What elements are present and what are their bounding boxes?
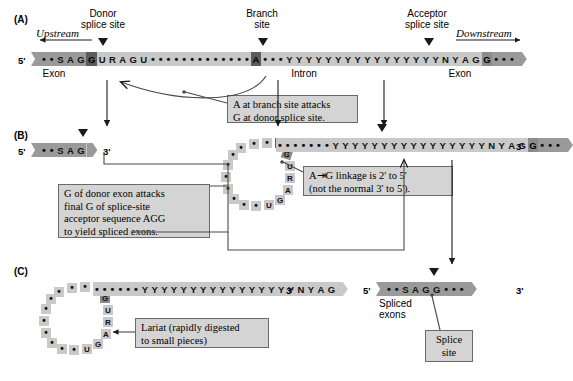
lariat-tail-u2-c: U [82,344,92,354]
branch-site-caret-icon [258,38,268,46]
donor-splice-site-label: Donor splice site [63,8,143,30]
polypyrimidine-tract-c: YYYYYYYYYYYYYYYYNYAG [140,282,337,296]
donor-g-residue: G [86,52,97,66]
lariat-bead [223,184,233,194]
spliced-site-caret-icon [429,268,439,276]
branch-a-residue: A [251,52,261,66]
lariat-tail-u1: U [285,161,295,171]
spliced-5prime-cap [376,282,385,296]
lariat-bead [221,172,231,182]
acceptor-exon-segment-b: ••• [538,138,562,152]
exon-left-label: Exon [30,68,78,79]
lariat-tail-g: G [275,195,285,205]
panel-c-3prime: 3' [516,285,524,296]
branch-attack-callout: A at branch site attacks G at donor spli… [227,95,358,123]
donor-site-caret-icon [98,38,108,46]
lariat-bead [57,344,67,354]
lariat-bead [69,345,79,355]
exon-right-label: Exon [437,68,483,79]
branch-callout-leader-dot [182,90,186,94]
lariat-bead [239,200,249,210]
acceptor-exon-3prime-cap-b [562,138,573,152]
donor-exon-5prime-cap [31,143,40,157]
polypyrimidine-tract: YYYYYYYYYYYYYYYYNYAG [285,52,482,66]
panel-c-letter: (C) [14,266,28,277]
donor-exon-segment: ••SAG [40,143,86,157]
lariat-callout: Lariat (rapidly digested to small pieces… [135,318,269,348]
lariat-bead [229,194,239,204]
spliced-exons-strand: ••SAGG••• [376,282,477,296]
strand-5prime-cap [31,52,40,66]
spliced-exons-label: Spliced exons [379,298,435,320]
panel-c-5prime: 5' [363,285,371,296]
panel-a-letter: (A) [14,14,28,25]
lariat-bead [67,283,77,293]
panel-b-donor-3prime: 3' [103,146,111,157]
exon-right-segment: ••• [492,52,516,66]
intron-lead-dots-b: ••• [276,138,300,152]
intron-label: Intron [281,68,327,79]
donor-exon-3prime-cap [86,143,97,157]
lariat-structure-b: A G U R A G U [228,140,314,226]
panel-b-letter: (B) [14,130,28,141]
polypyrimidine-tract-b: YYYYYYYYYYYYYYYYNYAG [331,138,528,152]
lariat-bead [39,316,49,326]
panel-a-5prime: 5' [18,55,26,66]
intron-lead-dots-c: ••• [93,282,117,296]
panel-b-donor-caret-icon [78,129,88,137]
branch-site-label: Branch site [222,8,302,30]
spliced-3prime-cap [466,282,477,296]
released-intron-3prime-cap [337,282,348,296]
intron-post-branch-dots-c: ••• [117,282,141,296]
lariat-bead [47,338,57,348]
acceptor-g-residue-b: G [528,138,539,152]
lariat-structure-c: A G U R A G U [46,284,132,370]
intron-post-branch-dots-b: •••• [300,138,331,152]
linkage-callout: A⇥G linkage is 2' to 5' (not the normal … [303,166,453,196]
lariat-bead [262,138,272,148]
lariat-bead [251,201,261,211]
acceptor-site-caret-icon [424,38,434,46]
panel-b-5prime: 5' [18,146,26,157]
lariat-tail-u2: U [264,200,274,210]
panel-b-3prime: 3' [516,141,524,152]
donor-exon-strand: ••SAG [31,143,97,157]
lariat-bead [80,282,90,292]
lariat-bead [228,150,238,160]
lariat-bead [223,160,233,170]
linkage-callout-text: A⇥G linkage is 2' to 5' (not the normal … [309,170,410,194]
panel-c-intron-3prime: 3' [286,285,294,296]
exon-left-segment: ••SAG [40,52,86,66]
spliced-exon-sequence: ••SAGG••• [385,282,466,296]
lariat-tail-r: R [285,173,295,183]
acceptor-g-residue: G [482,52,493,66]
donor-attack-callout: G of donor exon attacks final G of splic… [58,184,210,238]
released-intron-strand: ••• ••• YYYYYYYYYYYYYYYYNYAG [93,282,348,296]
panel-b-acceptor-caret-icon [377,124,387,132]
pre-mrna-strand: ••SAG G URAGU ••••••••••••• A ••• YYYYYY… [31,52,527,66]
intron-spacer-1: ••••••••••••• [149,52,251,66]
lariat-tail-u1-c: U [103,305,113,315]
intron-5prime-consensus: URAGU [97,52,149,66]
intron-spacer-2: ••• [261,52,285,66]
strand-3prime-cap [516,52,527,66]
lariat-tail-g-c: G [93,339,103,349]
lariat-tail-a-c: A [101,329,111,339]
lariat-tail-a: A [283,185,293,195]
lariat-bead [41,304,51,314]
branch-callout-leader [185,92,227,103]
lariat-bead [46,294,56,304]
splice-site-callout: Splice site [425,330,473,362]
intron-acceptor-strand-b: ••• •••• YYYYYYYYYYYYYYYYNYAG G ••• [276,138,573,152]
lariat-tail-r-c: R [103,317,113,327]
lariat-bead [249,139,259,149]
lariat-bead [41,328,51,338]
donor-attack-bracket-top [104,152,216,164]
acceptor-splice-site-label: Acceptor splice site [379,8,475,30]
